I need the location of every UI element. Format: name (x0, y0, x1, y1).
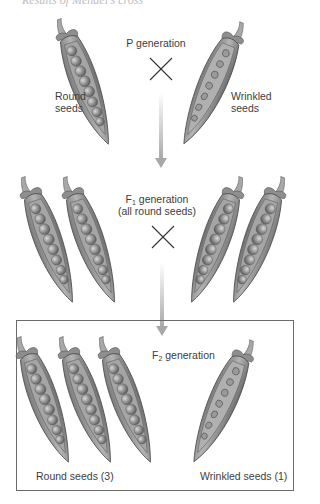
arrow-down-icon (155, 92, 167, 172)
f1-round-pod-3-icon (196, 176, 236, 316)
f2-round-label: Round seeds (3) (36, 470, 114, 482)
header-cut-text: Results of Mendel's cross (22, 0, 143, 6)
wrinkled-pea-pod-icon (196, 20, 236, 160)
f1-round-pod-4-icon (238, 176, 278, 316)
f2-wrinkled-label: Wrinkled seeds (1) (200, 470, 287, 482)
p-generation-title: P generation (120, 37, 192, 49)
round-pea-pod-icon (70, 18, 110, 158)
p-round-label: Round seeds (55, 90, 86, 114)
f2-round-pod-3-icon (112, 336, 152, 476)
f1-generation-subtitle: (all round seeds) (112, 205, 202, 217)
p-wrinkled-label: Wrinkled seeds (231, 90, 272, 114)
f1-round-pod-2-icon (76, 176, 116, 316)
f2-generation-title: F2 generation (152, 349, 215, 365)
cross-icon (152, 226, 174, 248)
cross-icon (150, 58, 172, 80)
